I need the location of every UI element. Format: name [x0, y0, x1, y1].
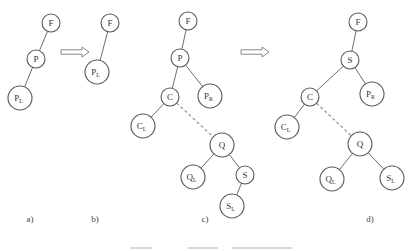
node-label: C	[307, 92, 313, 102]
node-subscript: R	[209, 96, 213, 102]
node-label: F	[107, 18, 112, 28]
node-c-P: P	[171, 49, 189, 67]
node-d-S: S	[341, 51, 359, 69]
node-label: S	[347, 55, 352, 65]
caption-fragment	[232, 247, 292, 249]
panel-label-b: b)	[91, 214, 99, 224]
edge-c-P-PR	[186, 65, 203, 87]
node-c-QL: QL	[181, 165, 205, 189]
node-label: F	[355, 17, 360, 27]
tree-rotation-diagram: FPPLFPLFPCPRCLQQLSSLFSCPRCLQQLSL a)b)c)d…	[0, 0, 419, 251]
caption-fragment	[130, 247, 152, 249]
node-d-PR: PR	[360, 82, 384, 106]
node-a-P: P	[27, 50, 45, 68]
edge-d-Q-SL	[368, 153, 384, 170]
node-c-Q: Q	[210, 133, 234, 157]
node-label: C	[167, 92, 173, 102]
edge-a-F-P	[39, 31, 47, 50]
node-subscript: R	[371, 94, 375, 100]
transform-arrow-icon	[61, 47, 89, 57]
edge-d-C-Q	[317, 103, 352, 136]
node-subscript: L	[332, 179, 336, 185]
panel-label-d: d)	[366, 214, 374, 224]
figure-caption	[130, 247, 292, 249]
edge-c-P-C	[172, 67, 178, 89]
node-c-PR: PR	[198, 84, 222, 108]
edge-b-F-PL	[100, 32, 108, 61]
node-a-PL: PL	[8, 86, 32, 110]
node-subscript: L	[391, 178, 395, 184]
node-c-CL: CL	[131, 114, 155, 138]
node-c-C: C	[161, 88, 179, 106]
node-subscript: L	[143, 126, 147, 132]
node-subscript: L	[193, 177, 197, 183]
node-label: F	[185, 16, 190, 26]
edge-c-F-P	[182, 30, 186, 49]
node-c-F: F	[179, 12, 197, 30]
node-subscript: L	[19, 98, 23, 104]
node-d-CL: CL	[275, 115, 299, 139]
node-d-F: F	[349, 13, 367, 31]
node-subscript: L	[96, 72, 100, 78]
node-label: Q	[219, 140, 226, 150]
edge-c-C-CL	[151, 104, 164, 118]
node-subscript: L	[231, 206, 235, 212]
node-d-Q: Q	[348, 132, 372, 156]
node-label: Q	[357, 139, 364, 149]
edge-c-S-SL	[237, 183, 242, 195]
node-d-SL: SL	[380, 166, 404, 190]
node-c-SL: SL	[220, 194, 244, 218]
edge-a-P-PL	[25, 67, 33, 87]
node-label: P	[33, 54, 38, 64]
transform-arrow-icon	[241, 47, 269, 57]
node-d-QL: QL	[320, 167, 344, 191]
edge-d-F-S	[352, 31, 356, 51]
panel-label-a: a)	[27, 214, 34, 224]
panel-labels-layer: a)b)c)d)	[27, 214, 374, 224]
node-label: P	[177, 53, 182, 63]
node-label: F	[48, 18, 53, 28]
node-b-F: F	[101, 14, 119, 32]
edge-c-Q-S	[229, 155, 239, 168]
edge-d-Q-QL	[339, 153, 352, 169]
edge-c-Q-QL	[201, 154, 214, 168]
node-d-C: C	[301, 88, 319, 106]
nodes-layer: FPPLFPLFPCPRCLQQLSSLFSCPRCLQQLSL	[8, 12, 404, 218]
node-c-S: S	[236, 166, 254, 184]
node-subscript: L	[287, 127, 291, 133]
panel-label-c: c)	[202, 214, 209, 224]
node-a-F: F	[42, 14, 60, 32]
edge-d-S-PR	[355, 68, 366, 84]
node-label: S	[242, 170, 247, 180]
caption-fragment	[188, 247, 218, 249]
edge-d-S-C	[317, 66, 344, 91]
edge-d-C-CL	[294, 104, 304, 117]
node-b-PL: PL	[85, 60, 109, 84]
arrows-layer	[61, 47, 269, 57]
